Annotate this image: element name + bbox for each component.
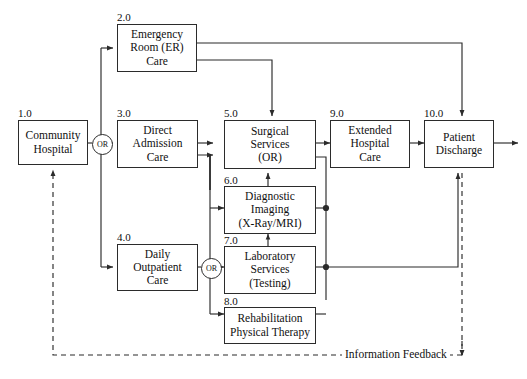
or-junction-intake-label: OR — [97, 141, 108, 149]
emergency-room-care[interactable]: Emergency Room (ER) Care — [117, 24, 197, 72]
patient-discharge-line-1: Patient — [443, 131, 475, 144]
diagnostic-imaging-line-1: Diagnostic — [245, 190, 295, 203]
laboratory-services-line-3: (Testing) — [249, 277, 290, 290]
or-junction-intake[interactable]: OR — [92, 134, 113, 155]
emergency-room-care-line-3: Care — [146, 55, 168, 68]
edge-direct-admission-down — [198, 155, 210, 190]
edge-surgical-down-trunk — [316, 157, 326, 300]
rehabilitation-physical-therapy[interactable]: Rehabilitation Physical Therapy — [224, 307, 316, 344]
laboratory-services-line-2: Services — [251, 263, 290, 276]
direct-admission-care-line-1: Direct — [143, 124, 172, 137]
extended-hospital-care-line-1: Extended — [348, 124, 391, 137]
extended-hospital-care-line-3: Care — [359, 151, 381, 164]
surgical-services-line-1: Surgical — [251, 125, 289, 138]
node-id-5: 5.0 — [224, 107, 238, 119]
community-hospital-line-2: Hospital — [34, 143, 73, 156]
node-id-1: 1.0 — [18, 107, 32, 119]
extended-hospital-care-line-2: Hospital — [351, 137, 390, 150]
node-id-6: 6.0 — [224, 174, 238, 186]
node-id-3: 3.0 — [117, 107, 131, 119]
direct-admission-care[interactable]: Direct Admission Care — [117, 120, 198, 168]
daily-outpatient-care-line-2: Outpatient — [133, 261, 182, 274]
extended-hospital-care[interactable]: Extended Hospital Care — [330, 120, 410, 168]
node-id-10: 10.0 — [424, 107, 443, 119]
junction-dot-laboratory — [323, 264, 329, 270]
node-id-9: 9.0 — [330, 107, 344, 119]
edge-trunk-to-discharge — [326, 173, 458, 267]
or-junction-ancillary-label: OR — [206, 265, 217, 273]
daily-outpatient-care-line-1: Daily — [145, 248, 171, 261]
patient-discharge-line-2: Discharge — [436, 144, 482, 157]
diagnostic-imaging[interactable]: Diagnostic Imaging (X-Ray/MRI) — [224, 186, 316, 234]
edge-er-to-discharge — [197, 43, 462, 116]
emergency-room-care-line-2: Room (ER) — [130, 41, 183, 54]
node-id-4: 4.0 — [117, 231, 131, 243]
node-id-8: 8.0 — [224, 295, 238, 307]
laboratory-services-line-1: Laboratory — [244, 250, 295, 263]
community-hospital-line-1: Community — [26, 129, 81, 142]
daily-outpatient-care-line-3: Care — [147, 274, 169, 287]
daily-outpatient-care[interactable]: Daily Outpatient Care — [117, 244, 198, 291]
surgical-services-line-3: (OR) — [258, 151, 282, 164]
edge-feedback-arrowhead-stub — [462, 348, 476, 357]
direct-admission-care-line-3: Care — [147, 151, 169, 164]
rehabilitation-line-1: Rehabilitation — [237, 312, 302, 325]
surgical-services-line-2: Services — [251, 138, 290, 151]
edge-feedback-up-to-hospital — [53, 170, 57, 355]
node-id-7: 7.0 — [224, 234, 238, 246]
laboratory-services[interactable]: Laboratory Services (Testing) — [224, 246, 316, 294]
rehabilitation-line-2: Physical Therapy — [230, 326, 310, 339]
node-id-2: 2.0 — [117, 11, 131, 23]
flowchart-diagram: 1.0 Community Hospital 2.0 Emergency Roo… — [0, 0, 527, 379]
diagnostic-imaging-line-2: Imaging — [251, 203, 289, 216]
emergency-room-care-line-1: Emergency — [131, 28, 183, 41]
junction-dot-diagnostic — [323, 205, 329, 211]
information-feedback-label: Information Feedback — [342, 348, 450, 361]
community-hospital[interactable]: Community Hospital — [18, 120, 88, 165]
or-junction-ancillary[interactable]: OR — [201, 258, 222, 279]
patient-discharge[interactable]: Patient Discharge — [424, 120, 494, 168]
diagnostic-imaging-line-3: (X-Ray/MRI) — [238, 217, 301, 230]
surgical-services[interactable]: Surgical Services (OR) — [224, 120, 316, 169]
direct-admission-care-line-2: Admission — [133, 137, 183, 150]
